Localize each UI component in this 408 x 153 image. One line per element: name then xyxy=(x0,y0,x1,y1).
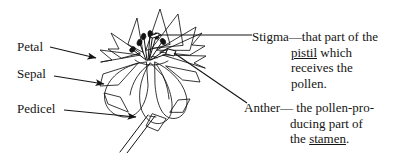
definition-anther-line-1: ducing part of xyxy=(244,116,374,132)
pedicel-edge-right xyxy=(127,116,155,153)
definition-anther-head-rest: the pollen-pro- xyxy=(293,100,374,115)
flower-drawing-group xyxy=(100,9,206,153)
definition-anther: Anther— the pollen-pro- ducing part of t… xyxy=(244,100,374,147)
definition-stigma-line-1-post: which xyxy=(317,45,352,60)
sepal-right xyxy=(166,66,200,82)
definition-anther-line-2-pre: the xyxy=(290,131,309,146)
leader-lines-right xyxy=(158,35,252,103)
sepal-lower-left xyxy=(104,93,128,112)
label-pedicel: Pedicel xyxy=(17,102,55,115)
term-stigma: Stigma xyxy=(252,29,289,44)
label-sepal-text: Sepal xyxy=(17,66,46,81)
label-pedicel-text: Pedicel xyxy=(17,101,55,116)
leader-petal xyxy=(50,47,96,58)
petal-outer-left-mid xyxy=(100,50,140,62)
em-dash: — xyxy=(280,100,293,115)
label-petal-text: Petal xyxy=(17,39,43,54)
term-stamen: stamen xyxy=(309,131,346,146)
leader-sepal xyxy=(54,76,104,84)
label-petal: Petal xyxy=(17,40,43,53)
definition-anther-line-2-post: . xyxy=(346,131,349,146)
definition-stigma-line-1: pistil which xyxy=(252,45,378,61)
definition-anther-line-2: the stamen. xyxy=(244,131,374,147)
label-sepal: Sepal xyxy=(17,67,46,80)
definition-stigma-line-2: receives the xyxy=(252,60,378,76)
term-pistil: pistil xyxy=(291,45,317,60)
definition-stigma-head: Stigma—that part of the xyxy=(252,29,378,45)
definition-stigma-line-3: pollen. xyxy=(252,76,378,92)
definition-stigma: Stigma—that part of the pistil which rec… xyxy=(252,29,378,91)
em-dash: — xyxy=(289,29,302,44)
leader-anther xyxy=(174,53,247,103)
definition-anther-head: Anther— the pollen-pro- xyxy=(244,100,374,116)
definition-stigma-head-rest: that part of the xyxy=(302,29,378,44)
petal-outer-right-mid xyxy=(163,55,206,68)
pedicel-edge-left xyxy=(120,115,148,152)
term-anther: Anther xyxy=(244,100,280,115)
sepal-left xyxy=(100,63,138,86)
figure-flower-diagram: Petal Sepal Pedicel Stigma—that part of … xyxy=(0,0,408,153)
